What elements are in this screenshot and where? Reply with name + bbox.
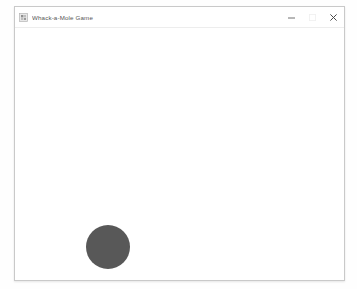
- app-icon: [19, 13, 28, 22]
- minimize-button[interactable]: [281, 7, 302, 28]
- whack-a-mole-window: Whack-a-Mole Game: [14, 6, 345, 281]
- window-controls: [281, 7, 344, 28]
- title-bar[interactable]: Whack-a-Mole Game: [15, 7, 344, 28]
- game-canvas[interactable]: [15, 28, 344, 280]
- close-button[interactable]: [323, 7, 344, 28]
- minimize-icon: [287, 13, 296, 22]
- close-icon: [329, 13, 338, 22]
- window-title: Whack-a-Mole Game: [32, 13, 281, 22]
- maximize-icon: [308, 13, 317, 22]
- desktop-backdrop: Whack-a-Mole Game: [0, 0, 357, 289]
- mole[interactable]: [86, 225, 130, 269]
- maximize-button[interactable]: [302, 7, 323, 28]
